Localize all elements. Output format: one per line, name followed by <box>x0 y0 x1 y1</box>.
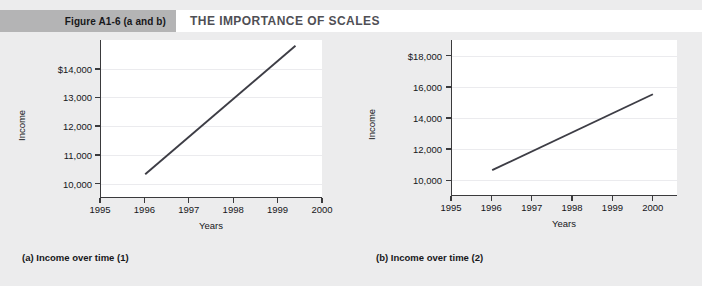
figure-number-tab: Figure A1-6 (a and b) <box>0 10 176 32</box>
x-axis-tick-label: 1998 <box>561 202 582 213</box>
x-axis-tick <box>321 198 322 203</box>
caption-a: (a) Income over time (1) <box>22 252 129 263</box>
x-axis-tick-label: 1996 <box>134 204 155 215</box>
chart-panel-b: 10,00012,00014,00016,000$18,000 Income 1… <box>372 36 690 258</box>
x-axis-tick-label: 1995 <box>440 202 461 213</box>
x-axis-tick <box>450 196 451 201</box>
y-axis-title-a: Income <box>16 110 27 141</box>
x-axis-tick-label: 2000 <box>311 204 332 215</box>
figure-number-label: Figure A1-6 (a and b) <box>65 16 166 27</box>
chart-area-b: 10,00012,00014,00016,000$18,000 Income 1… <box>372 36 690 258</box>
x-axis-tick-label: 2000 <box>642 202 663 213</box>
y-axis-labels-a: 10,00011,00012,00013,000$14,000 <box>32 36 92 258</box>
x-axis-tick-label: 1999 <box>267 204 288 215</box>
x-axis-tick <box>531 196 532 201</box>
x-axis-tick-label: 1997 <box>521 202 542 213</box>
data-series-line <box>492 94 653 170</box>
y-axis-tick-label: 14,000 <box>413 113 442 124</box>
x-axis-tick <box>233 198 234 203</box>
caption-b: (b) Income over time (2) <box>376 252 483 263</box>
x-axis-tick <box>99 198 100 203</box>
chart-area-a: 10,00011,00012,00013,000$14,000 Income 1… <box>18 36 348 258</box>
y-axis-tick-label: 12,000 <box>413 144 442 155</box>
y-axis-tick-label: 10,000 <box>63 178 92 189</box>
figure-root: Figure A1-6 (a and b) THE IMPORTANCE OF … <box>0 0 702 286</box>
x-axis-tick-label: 1997 <box>178 204 199 215</box>
y-axis-title-b: Income <box>366 109 377 140</box>
data-line-svg <box>452 40 677 195</box>
y-axis-tick-label: 13,000 <box>63 92 92 103</box>
x-axis-tick <box>571 196 572 201</box>
x-axis-tick <box>188 198 189 203</box>
x-axis-tick <box>652 196 653 201</box>
y-axis-tick-label: 10,000 <box>413 175 442 186</box>
figure-header: Figure A1-6 (a and b) THE IMPORTANCE OF … <box>0 10 702 32</box>
chart-panel-a: 10,00011,00012,00013,000$14,000 Income 1… <box>18 36 348 258</box>
x-axis-title-b: Years <box>552 218 576 229</box>
plot-area-b <box>451 40 677 196</box>
y-axis-tick-label: 16,000 <box>413 81 442 92</box>
x-axis-tick-label: 1998 <box>223 204 244 215</box>
x-axis-tick-label: 1995 <box>89 204 110 215</box>
x-axis-tick <box>612 196 613 201</box>
y-axis-tick-label: 11,000 <box>64 149 92 160</box>
x-axis-tick-label: 1996 <box>481 202 502 213</box>
y-axis-tick-label: $14,000 <box>58 63 92 74</box>
x-axis-title-a: Years <box>199 220 223 231</box>
data-series-line <box>145 46 295 174</box>
x-axis-tick-label: 1999 <box>602 202 623 213</box>
figure-title: THE IMPORTANCE OF SCALES <box>190 10 380 32</box>
y-axis-labels-b: 10,00012,00014,00016,000$18,000 <box>382 36 442 258</box>
x-axis-tick <box>277 198 278 203</box>
x-axis-tick <box>144 198 145 203</box>
data-line-svg <box>101 40 322 197</box>
y-axis-tick-label: $18,000 <box>408 50 442 61</box>
plot-area-a <box>100 40 322 198</box>
x-axis-tick <box>491 196 492 201</box>
y-axis-tick-label: 12,000 <box>63 121 92 132</box>
